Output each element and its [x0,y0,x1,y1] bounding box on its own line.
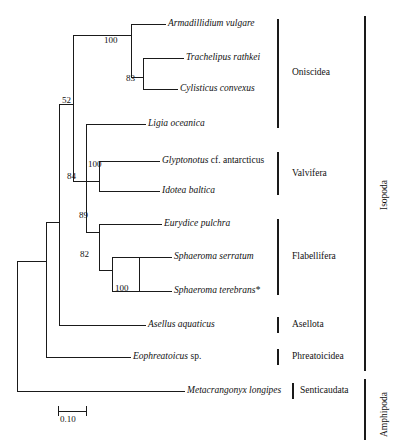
scale-bar-label: 0.10 [60,415,76,424]
taxon-label-ligia: Ligia oceanica [148,119,205,129]
bootstrap-value-node-89: 89 [79,211,88,220]
taxon-label-sphaeroma-serratum: Sphaeroma serratum [174,252,254,262]
branch-sphaeroma-serratum-stem [112,257,172,270]
taxon-label-glyptonotus: Glyptonotus cf. antarcticus [162,156,264,166]
taxon-label-trachelipus: Trachelipus rathkei [186,53,260,63]
clade-label-senticaudata: Senticaudata [300,386,349,396]
bootstrap-value-oniscidea-crown: 100 [104,36,118,45]
branch-asellus [59,222,146,325]
bootstrap-value-valvifera: 100 [88,160,102,169]
taxon-label-idotea: Idotea baltica [162,186,215,196]
taxon-label-cylisticus: Cylisticus convexus [180,84,255,94]
taxon-label-eophreatoicus: Eophreatoicus sp. [133,352,201,362]
clade-label-oniscidea: Oniscidea [292,68,330,78]
taxon-label-eurydice: Eurydice pulchra [164,219,230,229]
bootstrap-value-sphaeroma: 100 [115,284,129,293]
branch-node82-down [99,232,112,270]
bootstrap-value-node-82: 82 [80,250,89,259]
taxon-label-metacrangonyx: Metacrangonyx longipes [187,386,281,396]
bootstrap-value-node-84: 84 [67,172,76,181]
branch-node52-to-oniscidea [73,35,87,104]
taxon-label-asellus: Asellus aquaticus [148,320,215,330]
phylogenetic-tree-figure: Armadillidium vulgare Trachelipus rathke… [0,0,401,443]
clade-label-flabellifera: Flabellifera [292,252,336,262]
taxon-label-armadillidium: Armadillidium vulgare [168,19,254,29]
branch-ligia [86,124,146,181]
superclade-label-amphipoda: Amphipoda [380,392,390,437]
clade-bracket-group [278,19,293,399]
branch-eurydice [99,224,162,232]
clade-label-asellota: Asellota [292,320,324,330]
clade-label-phreatoicidea: Phreatoicidea [292,352,344,362]
bootstrap-value-isopoda-basal: 52 [62,96,71,105]
taxon-label-sphaeroma-terebrans: Sphaeroma terebrans* [174,286,260,296]
bootstrap-value-trachelipus-cylisticus: 83 [126,74,135,83]
branch-idotea [99,176,160,191]
branch-glyptonotus [99,161,160,176]
branch-metacrangonyx [17,261,159,391]
superclade-label-isopoda: Isopoda [380,180,390,210]
clade-label-valvifera: Valvifera [292,169,327,179]
